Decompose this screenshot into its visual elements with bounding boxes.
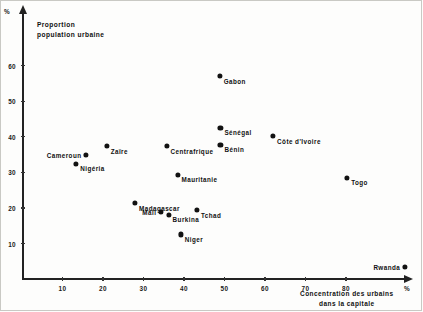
y-axis-caption-line-1: Proportion bbox=[37, 20, 104, 30]
y-tick-mark bbox=[21, 136, 25, 137]
x-axis-caption-line-2: dans la capitale bbox=[300, 299, 394, 309]
data-point[interactable] bbox=[345, 175, 350, 180]
y-tick-mark bbox=[21, 207, 25, 208]
data-point[interactable] bbox=[158, 209, 163, 214]
scatter-chart: % % Proportion population urbaine Concen… bbox=[0, 0, 423, 312]
y-tick-mark bbox=[21, 65, 25, 66]
data-point[interactable] bbox=[104, 143, 109, 148]
y-tick-mark bbox=[21, 172, 25, 173]
data-point-label: Mali bbox=[142, 208, 156, 215]
x-axis-arrow-icon bbox=[404, 275, 413, 283]
data-point[interactable] bbox=[132, 200, 137, 205]
x-tick-label: 80 bbox=[342, 285, 350, 292]
data-point-label: Centrafrique bbox=[171, 147, 214, 154]
data-point-label: Togo bbox=[351, 179, 368, 186]
data-point-label: Cameroun bbox=[47, 151, 82, 158]
x-tick-mark bbox=[224, 277, 225, 281]
x-tick-label: 20 bbox=[99, 285, 107, 292]
x-tick-label: 50 bbox=[221, 285, 229, 292]
data-point[interactable] bbox=[402, 265, 407, 270]
y-tick-label: 40 bbox=[2, 133, 16, 140]
y-tick-mark bbox=[21, 243, 25, 244]
data-point-label: Bénin bbox=[224, 146, 244, 153]
y-axis-line bbox=[22, 12, 24, 280]
y-tick-label: 10 bbox=[2, 240, 16, 247]
x-tick-mark bbox=[345, 277, 346, 281]
data-point[interactable] bbox=[83, 152, 88, 157]
data-point[interactable] bbox=[218, 125, 223, 130]
x-tick-mark bbox=[143, 277, 144, 281]
x-tick-label: 30 bbox=[140, 285, 148, 292]
x-tick-mark bbox=[183, 277, 184, 281]
data-point-label: Gabon bbox=[224, 77, 246, 84]
x-tick-mark bbox=[102, 277, 103, 281]
data-point[interactable] bbox=[217, 74, 222, 79]
y-axis-caption: Proportion population urbaine bbox=[37, 20, 104, 40]
data-point[interactable] bbox=[178, 232, 183, 237]
y-axis-arrow-icon bbox=[19, 5, 27, 14]
data-point[interactable] bbox=[164, 143, 169, 148]
data-point[interactable] bbox=[271, 133, 276, 138]
data-point-label: Mauritanie bbox=[182, 176, 218, 183]
data-point[interactable] bbox=[74, 161, 79, 166]
x-axis-line bbox=[22, 278, 407, 280]
data-point-label: Niger bbox=[185, 235, 203, 242]
y-tick-label: 60 bbox=[2, 62, 16, 69]
plot-area: % % Proportion population urbaine Concen… bbox=[0, 0, 423, 312]
x-tick-mark bbox=[305, 277, 306, 281]
x-tick-label: 70 bbox=[302, 285, 310, 292]
data-point[interactable] bbox=[166, 212, 171, 217]
data-point-label: Tchad bbox=[201, 211, 221, 218]
data-point[interactable] bbox=[175, 172, 180, 177]
x-tick-label: 60 bbox=[261, 285, 269, 292]
data-point[interactable] bbox=[194, 208, 199, 213]
data-point[interactable] bbox=[218, 142, 223, 147]
x-tick-mark bbox=[62, 277, 63, 281]
x-tick-label: 10 bbox=[59, 285, 67, 292]
data-point-label: Rwanda bbox=[373, 264, 400, 271]
data-point-label: Côte d'Ivoire bbox=[277, 137, 321, 144]
y-axis-caption-line-2: population urbaine bbox=[37, 30, 104, 40]
x-axis-unit-label: % bbox=[404, 285, 410, 292]
y-tick-label: 30 bbox=[2, 169, 16, 176]
data-point-label: Burkina bbox=[173, 216, 200, 223]
x-tick-label: 40 bbox=[180, 285, 188, 292]
y-tick-label: 50 bbox=[2, 98, 16, 105]
data-point-label: Zaïre bbox=[111, 147, 128, 154]
y-tick-label: 20 bbox=[2, 205, 16, 212]
data-point-label: Nigéria bbox=[80, 165, 105, 172]
data-point-label: Sénégal bbox=[224, 129, 251, 136]
x-tick-mark bbox=[264, 277, 265, 281]
y-axis-unit-label: % bbox=[4, 8, 10, 15]
y-tick-mark bbox=[21, 101, 25, 102]
